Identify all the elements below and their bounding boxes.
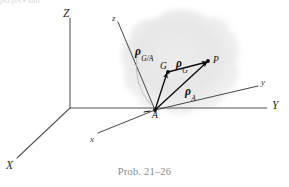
- axis-line-x-lower: [98, 110, 155, 133]
- axis-label-Y: Y: [272, 100, 278, 112]
- marker-P: [206, 59, 210, 63]
- vector-label-rho-G: ρG: [176, 54, 187, 73]
- point-label-P: P: [213, 56, 219, 66]
- rho-subscript: G/A: [141, 54, 153, 63]
- tick-near-A: [144, 111, 150, 112]
- rho-subscript: G: [182, 66, 187, 75]
- vector-label-rho-G-over-A: ρG/A: [135, 42, 153, 61]
- axis-label-y-lower: y: [261, 78, 265, 87]
- rho-subscript: A: [191, 94, 196, 103]
- figure-drawing: [0, 0, 289, 187]
- figure-container: ρG ρA ▪ ωm: [0, 0, 289, 187]
- point-label-G: G: [160, 62, 167, 72]
- point-label-A: A: [152, 111, 158, 121]
- vector-label-rho-A: ρA: [185, 82, 196, 101]
- axis-label-z-lower: z: [112, 14, 116, 23]
- axis-label-x-lower: x: [90, 135, 94, 144]
- figure-caption: Prob. 21–26: [0, 166, 289, 177]
- axis-line-X: [17, 108, 70, 158]
- axis-label-Z: Z: [63, 8, 69, 20]
